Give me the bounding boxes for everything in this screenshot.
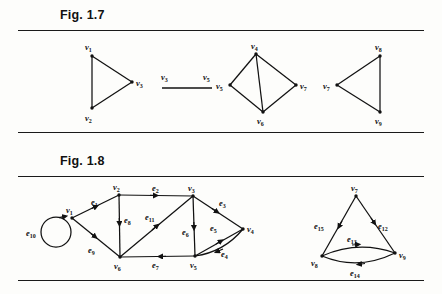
edge-label-e5: e5	[210, 223, 217, 234]
vertex-label-v8: v8	[311, 258, 318, 269]
vertex-label-v5: v5	[190, 260, 197, 271]
vertex-label-v9: v9	[399, 250, 406, 261]
edge-label-e15: e15	[314, 221, 324, 232]
edge-label-e14: e14	[350, 268, 360, 279]
scanned-textbook-page: Fig. 1.7 Fig. 1.8 v1 v2 v3 v3 v5	[0, 0, 442, 294]
edge-label-e3: e3	[219, 198, 226, 209]
edge-label-e6: e6	[182, 227, 189, 238]
vertex-label-v1: v1	[66, 205, 73, 216]
edge-e9-arrow	[91, 233, 96, 237]
edge-e8	[119, 195, 120, 257]
edge-e12	[356, 196, 395, 253]
edge-label-e9: e9	[88, 245, 95, 256]
edge-e11-arrow	[152, 225, 158, 230]
edge-label-e4: e4	[221, 249, 228, 260]
edge-label-e2: e2	[152, 183, 159, 194]
digraph-left: v1 v2 v3 v4 v5 v6 e1 e2 e3 e4 e5 e6 e7 e…	[26, 182, 254, 272]
vertex-label-v6: v6	[114, 261, 121, 272]
edge-e13	[322, 247, 395, 256]
edge-label-e12: e12	[378, 221, 388, 232]
edge-e10-self-loop	[41, 216, 71, 247]
edge-label-e10: e10	[26, 228, 36, 239]
edge-label-e11: e11	[145, 212, 154, 223]
edge-e7	[120, 256, 195, 257]
digraph-right: v7 v8 v9 e15 e12 e13 e14	[311, 183, 406, 279]
edge-e14-arrow	[358, 264, 365, 265]
vertex-label-v3: v3	[188, 183, 195, 194]
vertex-label-v2: v2	[113, 182, 120, 193]
edge-e12-arrow	[371, 218, 375, 224]
edge-e15-arrow	[339, 221, 343, 228]
edge-label-e7: e7	[152, 260, 159, 271]
edge-label-e1: e1	[91, 197, 98, 208]
edge-e5-arrow	[216, 241, 222, 245]
edge-e14	[322, 253, 395, 263]
edge-label-e8: e8	[124, 215, 131, 226]
edge-e3-arrow	[212, 209, 218, 213]
vertex-label-v4: v4	[247, 224, 254, 235]
edge-label-e13: e13	[347, 234, 357, 245]
figure-1-8-drawing: v1 v2 v3 v4 v5 v6 e1 e2 e3 e4 e5 e6 e7 e…	[0, 0, 442, 294]
vertex-label-v7: v7	[351, 183, 358, 194]
